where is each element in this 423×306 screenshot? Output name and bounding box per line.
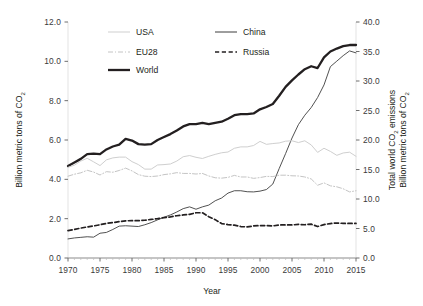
x-axis-tick-label: 1995 (218, 265, 237, 275)
x-axis-tick-label: 1985 (154, 265, 173, 275)
co2-emissions-line-chart: 1970197519801985199019952000200520102015… (0, 0, 423, 306)
x-axis-tick-label: 1990 (186, 265, 205, 275)
legend-label-world: World (136, 65, 159, 75)
y-axis-left-tick-label: 4.0 (49, 174, 61, 184)
legend-label-russia: Russia (243, 47, 269, 57)
y-axis-right-tick-label: 0.0 (363, 253, 375, 263)
y-axis-right-tick-label: 35.0 (363, 47, 380, 57)
y-axis-right-tick-label: 25.0 (363, 106, 380, 116)
y-axis-left-tick-label: 8.0 (49, 96, 61, 106)
legend-label-china: China (243, 27, 266, 37)
x-axis-tick-label: 2005 (282, 265, 301, 275)
y-axis-right-tick-label: 40.0 (363, 17, 380, 27)
y-axis-left-tick-label: 0.0 (49, 253, 61, 263)
x-axis-tick-label: 2010 (314, 265, 333, 275)
y-axis-left-tick-label: 12.0 (44, 17, 61, 27)
x-axis-tick-label: 2000 (250, 265, 269, 275)
series-line-usa (68, 141, 356, 169)
x-axis-title: Year (203, 286, 221, 296)
series-line-eu28 (68, 168, 356, 192)
y-axis-right-tick-label: 20.0 (363, 135, 380, 145)
y-axis-right-tick-label: 30.0 (363, 76, 380, 86)
y-axis-left-title: Billion metric tons of CO2 (14, 92, 26, 188)
legend-label-eu28: EU28 (136, 47, 158, 57)
series-line-china (68, 51, 356, 239)
legend-label-usa: USA (136, 27, 154, 37)
x-axis-tick-label: 1970 (58, 265, 77, 275)
x-axis-tick-label: 1980 (122, 265, 141, 275)
y-axis-right-title-line2: Billion metric tons of CO2 (398, 92, 410, 188)
x-axis-tick-label: 2015 (346, 265, 365, 275)
chart-canvas: 1970197519801985199019952000200520102015… (0, 0, 423, 306)
y-axis-left-tick-label: 10.0 (44, 56, 61, 66)
y-axis-right-tick-label: 5.0 (363, 224, 375, 234)
y-axis-left-tick-label: 2.0 (49, 214, 61, 224)
x-axis-tick-label: 1975 (90, 265, 109, 275)
y-axis-left-tick-label: 6.0 (49, 135, 61, 145)
y-axis-right-tick-label: 15.0 (363, 165, 380, 175)
y-axis-right-tick-label: 10.0 (363, 194, 380, 204)
series-line-russia (68, 213, 356, 231)
